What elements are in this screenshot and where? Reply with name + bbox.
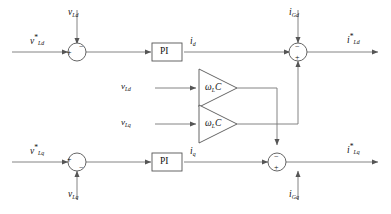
label-v-Lq-bottom-input: vLq xyxy=(68,190,78,201)
label-i-Gd: iGd xyxy=(289,8,299,19)
sign-bottom-right-plus: + xyxy=(274,164,279,172)
diagram-canvas: .w { stroke:#777777; stroke-width:0.9; f… xyxy=(0,0,391,214)
sign-top-left-plus: + xyxy=(67,49,72,57)
pi-block-top-label: PI xyxy=(160,47,168,57)
sign-top-right-minus: − xyxy=(295,43,300,51)
label-v-Ld-decoupling: vLd xyxy=(121,82,131,92)
label-v-Lq-decoupling: vLq xyxy=(121,118,131,128)
sign-bottom-left-plus: + xyxy=(67,156,72,164)
label-i-d: id xyxy=(190,37,196,48)
gain-triangle-bottom-label: ωLC xyxy=(205,119,221,130)
label-v-Ld-top-input: vLd xyxy=(68,8,78,19)
decoupling-wires xyxy=(155,61,298,145)
label-i-q: iq xyxy=(190,147,196,158)
label-i-Gq: iGq xyxy=(289,190,299,201)
pi-block-bottom-label: PI xyxy=(160,157,168,167)
bottom-channel-wires xyxy=(12,162,378,200)
sign-bottom-right-minus: − xyxy=(274,153,279,161)
label-i-Lq-reference: i*Lq xyxy=(347,143,360,156)
label-i-Ld-reference: i*Ld xyxy=(347,33,360,46)
control-block-diagram: .w { stroke:#777777; stroke-width:0.9; f… xyxy=(0,0,391,214)
sign-bottom-left-minus: − xyxy=(79,164,84,172)
sign-top-left-minus: − xyxy=(79,43,84,51)
label-v-Ld-reference: v*Ld xyxy=(30,34,44,47)
gain-triangle-top-label: ωLC xyxy=(205,83,221,94)
sign-top-right-plus: + xyxy=(295,54,300,62)
label-v-Lq-reference: v*Lq xyxy=(30,144,44,157)
